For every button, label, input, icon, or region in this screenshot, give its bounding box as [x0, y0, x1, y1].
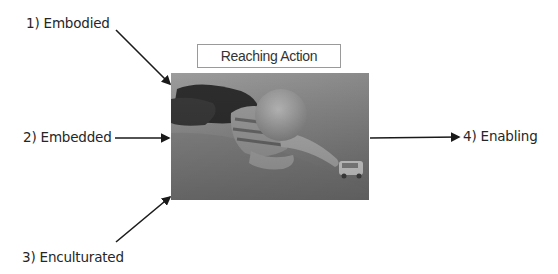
photo-illustration [171, 73, 369, 200]
label-enabling: 4) Enabling [463, 128, 538, 144]
diagram-title: Reaching Action [221, 48, 318, 64]
label-embodied: 1) Embodied [26, 15, 110, 31]
arrow-enculturated [116, 197, 170, 242]
label-embedded: 2) Embedded [23, 129, 112, 145]
label-enculturated: 3) Enculturated [22, 249, 124, 265]
arrow-enabling [370, 137, 459, 138]
title-box: Reaching Action [197, 44, 341, 68]
arrow-embodied [116, 30, 170, 84]
infant-reaching-photo [171, 73, 369, 200]
